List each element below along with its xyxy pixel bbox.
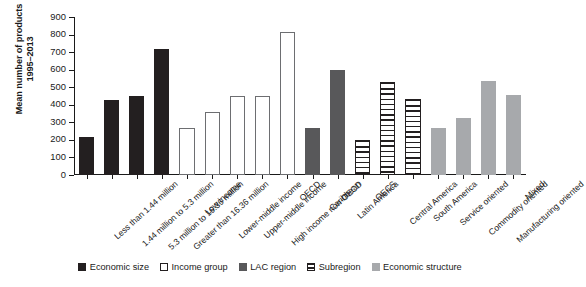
y-axis-tick: 800 [69, 35, 74, 36]
y-axis-tick-label: 900 [50, 11, 66, 22]
bar [305, 128, 320, 175]
plot-area: 0100200300400500600700800900 [74, 17, 526, 175]
y-axis-tick-label: 0 [61, 169, 66, 180]
y-axis-tick: 900 [69, 17, 74, 18]
legend-swatch-icon [160, 263, 168, 271]
x-axis-label: Manufacturing oriented [515, 179, 586, 245]
y-axis-tick-label: 100 [50, 151, 66, 162]
y-axis-tick-label: 500 [50, 81, 66, 92]
x-axis-label: Caribbean [327, 179, 363, 213]
x-axis-tick [313, 175, 314, 179]
x-axis-tick [187, 175, 188, 179]
y-axis-tick-label: 300 [50, 116, 66, 127]
bar [179, 128, 194, 175]
bar [431, 128, 446, 175]
x-axis-tick [413, 175, 414, 179]
y-axis-tick-label: 600 [50, 63, 66, 74]
x-axis-label: Less than 1.44 million [112, 179, 180, 241]
bar [380, 82, 395, 175]
x-axis-tick [513, 175, 514, 179]
y-axis-tick: 100 [69, 157, 74, 158]
y-axis-tick: 400 [69, 105, 74, 106]
x-axis-tick [363, 175, 364, 179]
x-axis-tick [287, 175, 288, 179]
bar [79, 137, 94, 175]
bar [104, 100, 119, 175]
bar [405, 99, 420, 175]
x-axis-tick [488, 175, 489, 179]
legend-label: Economic structure [383, 262, 462, 272]
bar [481, 81, 496, 175]
legend-item: Subregion [307, 262, 360, 272]
bar [506, 95, 521, 175]
x-axis-tick [388, 175, 389, 179]
y-axis-tick: 0 [69, 175, 74, 176]
x-axis-tick [212, 175, 213, 179]
legend-swatch-icon [78, 263, 86, 271]
bar [230, 96, 245, 175]
legend-label: LAC region [250, 262, 296, 272]
bar [205, 112, 220, 175]
y-axis-tick-label: 800 [50, 28, 66, 39]
y-axis-tick: 700 [69, 52, 74, 53]
legend-swatch-icon [372, 263, 380, 271]
y-axis-tick-label: 200 [50, 133, 66, 144]
x-axis-tick [87, 175, 88, 179]
legend-item: Economic size [78, 262, 149, 272]
x-axis-tick [162, 175, 163, 179]
bar [154, 49, 169, 175]
x-axis-tick [137, 175, 138, 179]
legend-swatch-icon [239, 263, 247, 271]
legend-item: LAC region [239, 262, 296, 272]
y-axis-tick: 600 [69, 70, 74, 71]
x-axis-tick [338, 175, 339, 179]
x-axis-tick [438, 175, 439, 179]
y-axis-tick-label: 400 [50, 98, 66, 109]
y-axis-line [74, 17, 75, 175]
legend-item: Income group [160, 262, 228, 272]
y-axis-tick-label: 700 [50, 46, 66, 57]
y-axis-title: Mean number of products 1995–2013 [14, 0, 36, 134]
legend-label: Subregion [319, 262, 361, 272]
bar [255, 96, 270, 175]
bar [280, 32, 295, 175]
y-axis-tick: 500 [69, 87, 74, 88]
legend-label: Income group [172, 262, 228, 272]
bar [330, 70, 345, 175]
y-axis-tick: 300 [69, 122, 74, 123]
bar [355, 140, 370, 175]
chart-legend: Economic sizeIncome groupLAC regionSubre… [0, 262, 540, 272]
bar [129, 96, 144, 175]
legend-swatch-icon [307, 263, 315, 271]
x-axis-tick [112, 175, 113, 179]
legend-label: Economic size [90, 262, 149, 272]
legend-item: Economic structure [372, 262, 462, 272]
bar [456, 118, 471, 175]
y-axis-tick: 200 [69, 140, 74, 141]
x-axis-tick [463, 175, 464, 179]
